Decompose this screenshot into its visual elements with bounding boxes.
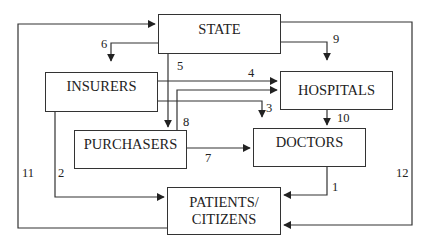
node-purchasers: PURCHASERS (74, 130, 187, 169)
node-patients-label-line2: CITIZENS (192, 211, 256, 228)
edge-label-8: 8 (183, 116, 189, 128)
node-hospitals-label: HOSPITALS (298, 82, 375, 99)
node-hospitals: HOSPITALS (280, 71, 393, 110)
edge-label-11: 11 (22, 167, 34, 179)
edge-label-10: 10 (337, 112, 350, 124)
edge-label-12: 12 (396, 167, 409, 179)
edge-label-3: 3 (266, 102, 272, 114)
node-insurers-label: INSURERS (66, 78, 136, 95)
node-patients-label-line1: PATIENTS/ (189, 194, 259, 211)
edge-label-6: 6 (101, 38, 107, 50)
edge-label-1: 1 (332, 181, 338, 193)
edge-label-2: 2 (58, 167, 64, 179)
node-state: STATE (158, 14, 281, 54)
node-state-label: STATE (198, 21, 240, 38)
arrow-3 (158, 101, 262, 117)
arrow-1 (284, 167, 327, 195)
node-doctors: DOCTORS (253, 128, 366, 167)
node-purchasers-label: PURCHASERS (84, 136, 177, 153)
node-insurers: INSURERS (45, 72, 158, 112)
node-patients: PATIENTS/ CITIZENS (167, 187, 281, 235)
edge-label-9: 9 (333, 33, 339, 45)
arrow-9 (281, 42, 327, 60)
edge-label-7: 7 (205, 152, 211, 164)
edge-label-5: 5 (177, 60, 183, 72)
arrow-6 (111, 43, 158, 61)
node-doctors-label: DOCTORS (276, 134, 343, 151)
edge-label-4: 4 (248, 67, 254, 79)
